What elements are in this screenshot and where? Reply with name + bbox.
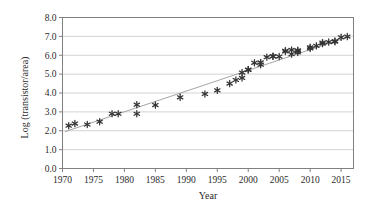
x-axis-ticks bbox=[63, 169, 342, 173]
x-axis-tick-labels: 1970197519801985199019952000200520102015 bbox=[53, 175, 351, 185]
svg-text:3.0: 3.0 bbox=[45, 107, 57, 117]
svg-text:1.0: 1.0 bbox=[45, 145, 57, 155]
x-axis-title: Year bbox=[62, 190, 354, 201]
svg-text:7.0: 7.0 bbox=[45, 32, 57, 42]
svg-text:1980: 1980 bbox=[115, 175, 134, 185]
svg-text:8.0: 8.0 bbox=[45, 13, 57, 23]
y-axis-ticks bbox=[59, 18, 63, 169]
svg-text:5.0: 5.0 bbox=[45, 69, 57, 79]
svg-text:6.0: 6.0 bbox=[45, 51, 57, 61]
svg-text:1975: 1975 bbox=[84, 175, 103, 185]
data-point-markers bbox=[66, 33, 350, 128]
svg-text:1990: 1990 bbox=[177, 175, 196, 185]
svg-text:2.0: 2.0 bbox=[45, 126, 57, 136]
svg-text:2015: 2015 bbox=[332, 175, 351, 185]
svg-text:0.0: 0.0 bbox=[45, 164, 57, 174]
svg-text:2005: 2005 bbox=[270, 175, 289, 185]
svg-text:4.0: 4.0 bbox=[45, 88, 57, 98]
y-axis-title: Log (transistor/area) bbox=[19, 38, 30, 158]
scatter-plot-canvas: 1970197519801985199019952000200520102015… bbox=[0, 0, 378, 212]
svg-text:1995: 1995 bbox=[208, 175, 227, 185]
svg-text:2010: 2010 bbox=[301, 175, 320, 185]
chart-figure: 1970197519801985199019952000200520102015… bbox=[0, 0, 378, 212]
y-axis-tick-labels: 0.01.02.03.04.05.06.07.08.0 bbox=[45, 13, 57, 174]
svg-text:1970: 1970 bbox=[53, 175, 72, 185]
svg-text:1985: 1985 bbox=[146, 175, 165, 185]
svg-text:2000: 2000 bbox=[239, 175, 258, 185]
trend-line bbox=[65, 36, 350, 131]
